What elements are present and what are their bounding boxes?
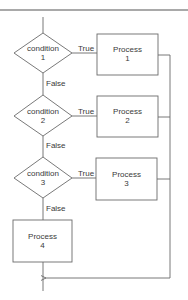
process-2-line2: 2 [125,116,130,125]
process-4-line2: 4 [40,241,45,250]
process-2: Process 2 [97,96,158,137]
decision-1-line2: 1 [41,53,46,62]
process-1-line1: Process [113,45,142,54]
decision-1-line1: condition [27,44,59,53]
process-1: Process 1 [97,34,158,75]
decision-3-line2: 3 [41,178,46,187]
process-4-line1: Process [28,232,57,241]
decision-2-line1: condition [27,107,59,116]
edge-label-false-1: False [46,79,66,88]
edge-label-true-3: True [78,169,95,178]
process-3-line1: Process [112,170,141,179]
edge-label-false-2: False [46,141,66,150]
edge-p1-merge [158,55,170,278]
decision-condition-3: condition 3 [14,157,72,198]
decision-condition-1: condition 1 [14,33,72,73]
edge-label-true-2: True [78,107,95,116]
decision-condition-2: condition 2 [14,95,72,136]
process-3: Process 3 [96,158,157,200]
decision-2-line2: 2 [41,116,46,125]
edge-label-true-1: True [78,44,95,53]
decision-3-line1: condition [27,169,59,178]
process-4: Process 4 [13,220,72,262]
process-2-line1: Process [113,107,142,116]
flowchart-diagram: condition 1 True Process 1 False conditi… [0,0,188,300]
process-1-line2: 1 [125,54,130,63]
edge-label-false-3: False [46,204,66,213]
process-3-line2: 3 [124,179,129,188]
